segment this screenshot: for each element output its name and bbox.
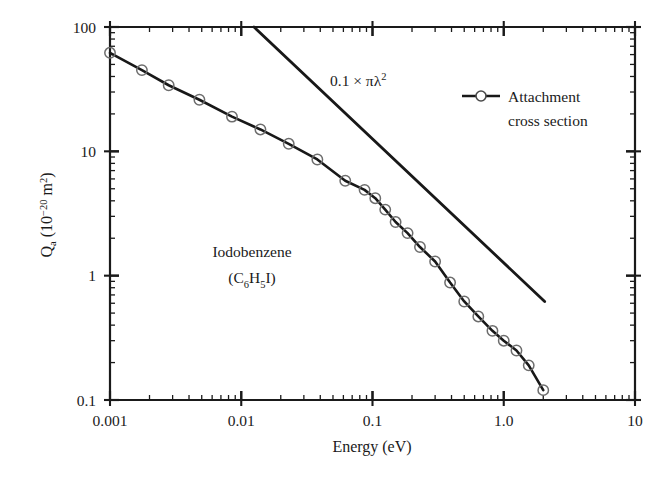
data-marker — [459, 296, 469, 306]
data-marker — [445, 277, 455, 287]
data-marker — [359, 185, 369, 195]
data-marker — [487, 326, 497, 336]
x-tick-label: 0.01 — [228, 412, 255, 429]
data-marker — [312, 154, 322, 164]
data-marker — [105, 48, 115, 58]
x-tick-label: 0.1 — [363, 412, 382, 429]
formula-close: I) — [265, 269, 275, 287]
data-marker — [415, 242, 425, 252]
data-marker — [538, 385, 548, 395]
y-axis-title-unit-open: (10 — [38, 216, 56, 241]
data-marker — [194, 95, 204, 105]
data-marker — [390, 217, 400, 227]
data-marker — [163, 80, 173, 90]
data-marker — [380, 204, 390, 214]
formula-h: H — [249, 269, 260, 286]
y-axis-title-q: Q — [38, 246, 55, 258]
y-tick-label: 10 — [81, 143, 97, 160]
x-axis-title: Energy (eV) — [332, 438, 411, 456]
x-tick-label: 1.0 — [494, 412, 514, 429]
data-marker — [227, 111, 237, 121]
molecule-name-label: Iodobenzene — [212, 243, 291, 260]
x-tick-label: 10 — [627, 412, 643, 429]
reference-line-label: 0.1 × πλ2 — [330, 71, 386, 89]
data-marker — [284, 139, 294, 149]
y-axis-title-unit-close: m — [38, 183, 55, 200]
legend-label-line1: Attachment — [508, 88, 581, 105]
data-marker — [402, 228, 412, 238]
data-marker — [524, 360, 534, 370]
legend-marker-circle-icon — [476, 91, 486, 101]
data-marker — [137, 65, 147, 75]
y-tick-label: 0.1 — [77, 392, 96, 409]
reference-line-label-text: 0.1 × πλ — [330, 72, 382, 89]
data-marker — [499, 335, 509, 345]
data-marker — [255, 124, 265, 134]
legend-label-line2: cross section — [508, 112, 588, 129]
y-tick-label: 1 — [88, 267, 96, 284]
x-tick-label: 0.001 — [93, 412, 128, 429]
y-axis-title-exp: −20 — [38, 200, 49, 216]
data-marker — [473, 311, 483, 321]
data-marker — [340, 176, 350, 186]
reference-line-label-sup: 2 — [381, 71, 386, 82]
y-axis-title-unit-end: ) — [38, 172, 56, 177]
data-marker — [370, 193, 380, 203]
data-marker — [511, 345, 521, 355]
data-marker — [430, 256, 440, 266]
chart-svg: 0.0010.010.11.010 0.1110100 Energy (eV) … — [0, 0, 667, 480]
y-tick-label: 100 — [73, 19, 97, 36]
formula-open: (C — [228, 269, 244, 287]
chart-figure: 0.0010.010.11.010 0.1110100 Energy (eV) … — [0, 0, 667, 480]
